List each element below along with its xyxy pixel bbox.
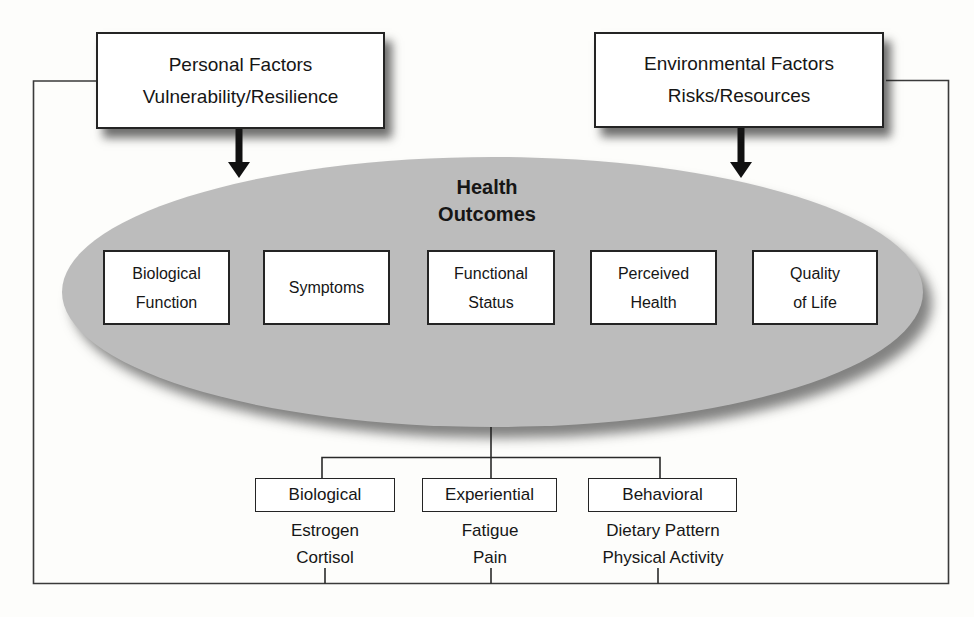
outcome-box-perceived-health: Perceived Health (590, 250, 717, 325)
experiential-item-1: Fatigue (395, 517, 585, 544)
outcome-box-quality-of-life: Quality of Life (752, 250, 878, 325)
branch-box-biological: Biological (255, 478, 395, 512)
personal-factors-title: Personal Factors (169, 49, 313, 81)
outcome-box-biological-function: Biological Function (103, 250, 230, 325)
environmental-factors-box: Environmental Factors Risks/Resources (594, 32, 884, 128)
branch-box-experiential: Experiential (422, 478, 557, 512)
diagram-canvas: Personal Factors Vulnerability/Resilienc… (0, 0, 974, 617)
personal-factors-box: Personal Factors Vulnerability/Resilienc… (96, 32, 385, 129)
personal-arrow-icon (228, 128, 250, 178)
environmental-factors-title: Environmental Factors (644, 48, 834, 80)
experiential-items: Fatigue Pain (395, 517, 585, 571)
health-outcomes-title: Health Outcomes (387, 174, 587, 228)
behavioral-item-1: Dietary Pattern (568, 517, 758, 544)
personal-factors-subtitle: Vulnerability/Resilience (143, 81, 339, 113)
biological-item-2: Cortisol (230, 544, 420, 571)
branch-box-behavioral: Behavioral (588, 478, 737, 512)
behavioral-item-2: Physical Activity (568, 544, 758, 571)
biological-item-1: Estrogen (230, 517, 420, 544)
experiential-item-2: Pain (395, 544, 585, 571)
behavioral-items: Dietary Pattern Physical Activity (568, 517, 758, 571)
outcome-box-symptoms: Symptoms (263, 250, 390, 325)
environmental-factors-subtitle: Risks/Resources (668, 80, 811, 112)
biological-items: Estrogen Cortisol (230, 517, 420, 571)
outcome-box-functional-status: Functional Status (427, 250, 555, 325)
environmental-arrow-icon (730, 128, 752, 178)
